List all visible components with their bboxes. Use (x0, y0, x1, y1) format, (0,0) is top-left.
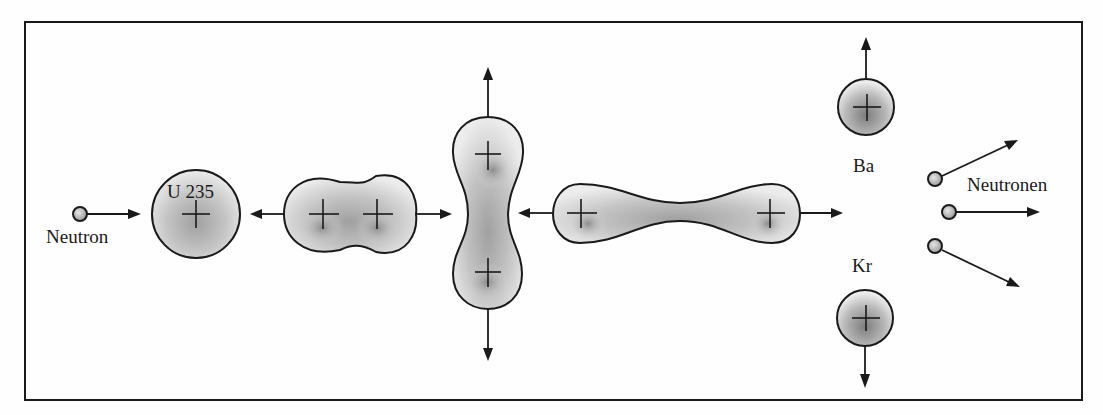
released-neutrons: Neutronen (928, 140, 1048, 287)
neutrons-out-label: Neutronen (967, 174, 1048, 195)
barium-label: Ba (853, 155, 875, 176)
krypton-fragment: Kr (837, 255, 893, 388)
elongated-horizontal-nucleus (518, 184, 843, 243)
fission-diagram: Neutron U 235 (0, 0, 1103, 415)
incoming-neutron: Neutron (46, 207, 141, 247)
u235-label: U 235 (167, 181, 214, 202)
barium-fragment: Ba (838, 37, 894, 176)
elongated-vertical-nucleus (453, 67, 523, 361)
deformed-nucleus (250, 175, 452, 253)
neutron-label: Neutron (46, 226, 109, 247)
krypton-label: Kr (852, 255, 873, 276)
u235-nucleus: U 235 (152, 170, 240, 258)
